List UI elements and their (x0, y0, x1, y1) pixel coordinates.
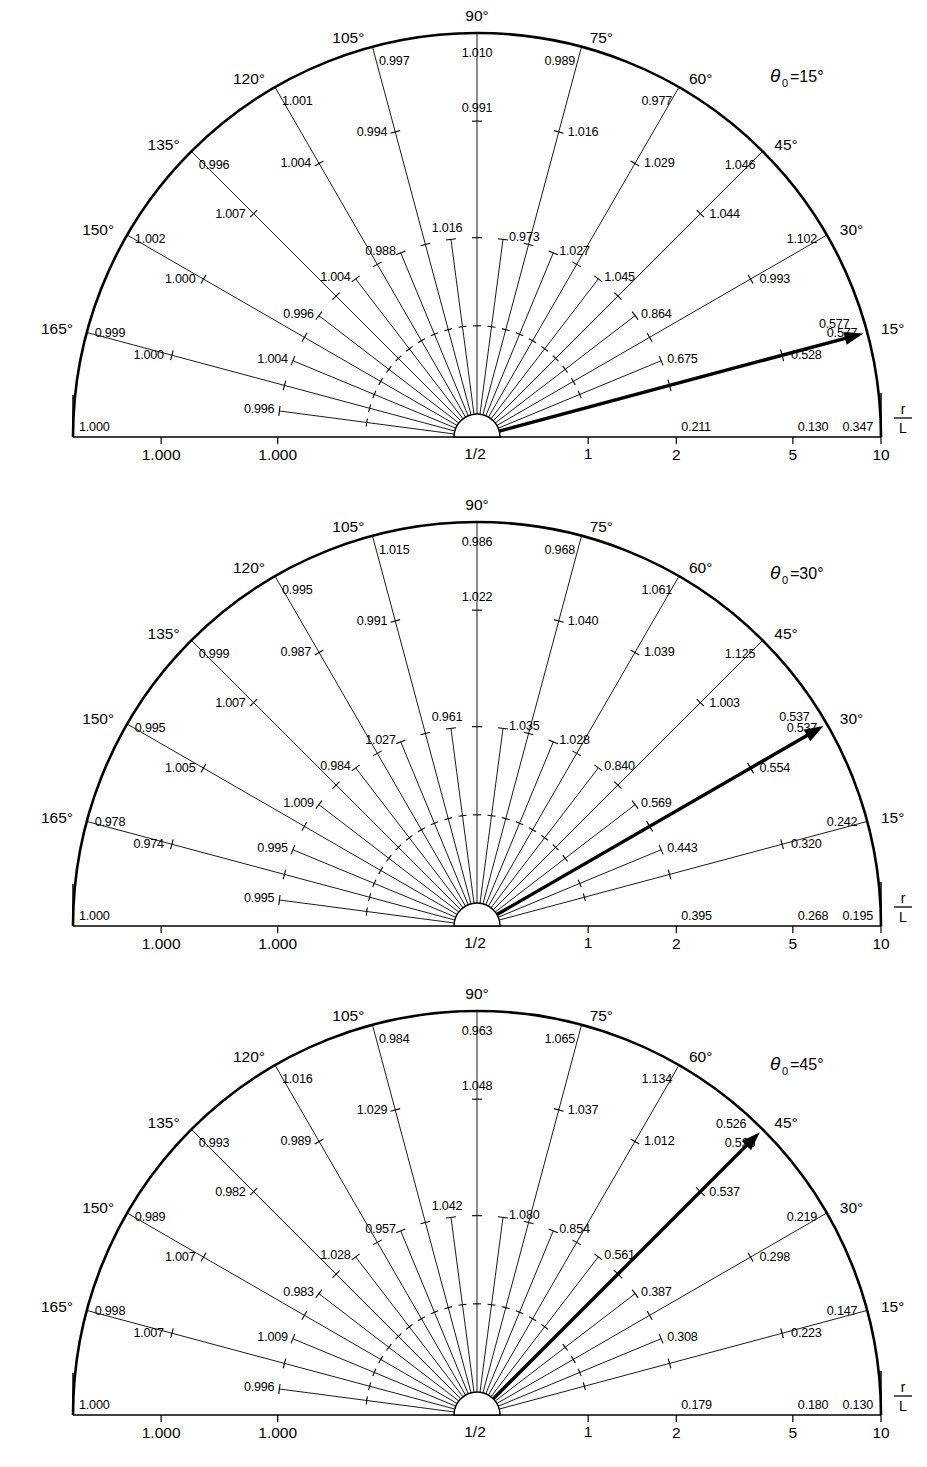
spoke-135deg (191, 151, 460, 420)
angle-label-75: 75° (590, 518, 613, 535)
angle-label-135: 135° (148, 1114, 180, 1131)
radial-tick (631, 1139, 640, 1144)
mid-value-105: 0.994 (357, 125, 388, 139)
inner-value-22.5: 0.308 (667, 1330, 698, 1344)
theta-subscript: 0 (782, 574, 788, 586)
r-over-L-numerator: r (901, 1379, 906, 1395)
mid-value-90: 1.048 (462, 1079, 493, 1093)
baseline-value-10: 0.130 (842, 1398, 873, 1412)
outer-value-165: 0.998 (95, 1304, 126, 1318)
baseline-value-5: 0.130 (798, 420, 829, 434)
radial-tick (418, 828, 425, 832)
theta-value: =30° (790, 565, 824, 582)
radial-tick (386, 1344, 391, 1350)
radial-tick (316, 801, 322, 809)
radial-tick (632, 801, 638, 809)
radial-tick (379, 1356, 383, 1363)
radial-tick (201, 764, 206, 773)
radial-tick (279, 1384, 280, 1394)
outer-value-15: 0.242 (827, 815, 858, 829)
angle-label-165: 165° (41, 1298, 73, 1315)
radial-tick (366, 1397, 367, 1405)
baseline-value-10: 0.195 (842, 909, 873, 923)
radial-tick (563, 855, 568, 861)
spoke-165deg (87, 332, 455, 431)
radial-tick (571, 1356, 575, 1363)
radial-tick (406, 346, 412, 351)
spoke-165deg (87, 1310, 455, 1409)
inner-value-157.5: 0.995 (257, 841, 288, 855)
angle-label-165: 165° (41, 320, 73, 337)
outer-value-15: 0.147 (827, 1304, 858, 1318)
plot-group: 1/2125101.0001.000rL165°150°135°120°105°… (41, 985, 912, 1441)
spoke-150deg (127, 1213, 457, 1404)
inner-value-97.5: 0.961 (432, 710, 463, 724)
left-tick-label-b: 1.000 (142, 935, 181, 952)
radial-tick (373, 751, 382, 756)
radial-tick (379, 378, 383, 385)
mid-value-30: 0.554 (760, 761, 791, 775)
radial-tick (572, 1240, 581, 1245)
spoke-15deg (499, 821, 867, 920)
figure-page: 1/2125101.0001.000rL165°150°135°120°105°… (0, 0, 927, 1467)
outer-value-30: 1.102 (787, 232, 818, 246)
mid-value-150: 1.000 (165, 272, 196, 286)
mid-value-30: 0.298 (760, 1250, 791, 1264)
radial-tick (529, 828, 536, 832)
mid-value-30: 0.993 (760, 272, 791, 286)
theta-value: =45° (790, 1056, 824, 1073)
left-tick-label-a: 1.000 (258, 935, 297, 952)
radial-tick (459, 1304, 467, 1305)
theta-subscript: 0 (782, 1065, 788, 1077)
radial-tick (529, 1317, 536, 1321)
inner-value-67.5: 1.027 (559, 244, 590, 258)
mid-value-120: 0.987 (281, 645, 312, 659)
baseline-value-left: 1.000 (79, 420, 110, 434)
radial-tick (541, 835, 547, 840)
radial-tick (647, 333, 652, 342)
radial-tick (572, 751, 581, 756)
radial-tick (632, 312, 638, 320)
theta0-arrow-value: 0.537 (779, 710, 810, 724)
angle-label-75: 75° (590, 29, 613, 46)
mid-value-135: 1.007 (215, 207, 246, 221)
angle-label-15: 15° (881, 1298, 904, 1315)
radial-tick (406, 1324, 412, 1329)
radial-tick-label-2: 2 (672, 935, 681, 952)
angle-label-45: 45° (774, 136, 797, 153)
outer-value-75: 0.989 (545, 54, 576, 68)
outer-value-45: 1.125 (725, 647, 756, 661)
baseline-value-5: 0.268 (798, 909, 829, 923)
angle-label-30: 30° (840, 1199, 863, 1216)
mid-value-45: 0.537 (709, 1185, 740, 1199)
plot-group: 1/2125101.0001.000rL165°150°135°120°105°… (41, 496, 912, 952)
spoke-30deg (497, 1213, 827, 1404)
radial-tick (302, 333, 307, 342)
baseline-value-2: 0.395 (681, 909, 712, 923)
radial-tick (379, 867, 383, 874)
inner-value-37.5: 0.569 (641, 796, 672, 810)
angle-label-120: 120° (233, 1048, 265, 1065)
spoke-45deg (493, 640, 762, 909)
outer-value-75: 1.065 (545, 1032, 576, 1046)
radial-tick (418, 1317, 425, 1321)
radial-tick-label-half: 1/2 (464, 934, 486, 951)
radial-tick (291, 845, 295, 854)
angle-label-75: 75° (590, 1007, 613, 1024)
outer-value-135: 0.993 (199, 1136, 230, 1150)
radial-tick (396, 740, 405, 744)
angle-label-15: 15° (881, 809, 904, 826)
angle-label-120: 120° (233, 559, 265, 576)
radial-tick (201, 1253, 206, 1262)
theta0-arrow-shaft (497, 732, 813, 915)
angle-label-30: 30° (840, 710, 863, 727)
radial-tick (316, 312, 322, 320)
spoke-165deg (87, 821, 455, 920)
mid-value-90: 0.991 (462, 101, 493, 115)
spoke-30deg (497, 235, 827, 426)
radial-tick (549, 1229, 558, 1233)
inner-value-82.5: 0.973 (509, 230, 540, 244)
outer-value-45: 1.046 (725, 158, 756, 172)
inner-value-157.5: 1.004 (257, 352, 288, 366)
inner-value-142.5: 1.009 (283, 796, 314, 810)
